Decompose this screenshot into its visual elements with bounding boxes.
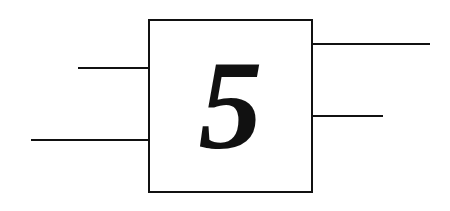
block-label: 5 bbox=[150, 41, 311, 169]
output-line-1 bbox=[311, 43, 430, 45]
block-box: 5 bbox=[148, 19, 313, 193]
input-line-2 bbox=[31, 139, 149, 141]
output-line-2 bbox=[311, 115, 383, 117]
input-line-1 bbox=[78, 67, 149, 69]
